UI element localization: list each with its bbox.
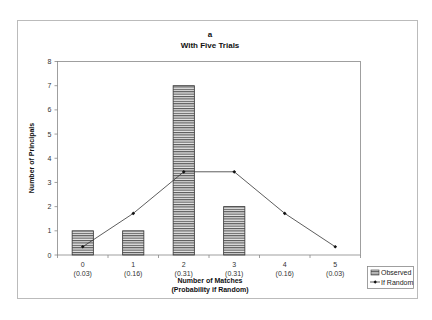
- chart-title: a: [208, 30, 213, 39]
- x-axis-subtitle: (Probability if Random): [172, 286, 249, 294]
- y-tick-label: 1: [48, 227, 52, 234]
- x-tick-label: 4: [283, 261, 287, 268]
- x-tick-label: 3: [232, 261, 236, 268]
- bar-observed-0: [72, 231, 93, 255]
- legend: Observed If Random: [368, 267, 414, 289]
- legend-observed-swatch: [371, 270, 379, 275]
- chart-subtitle: With Five Trials: [181, 41, 240, 50]
- legend-if-random-label: If Random: [381, 279, 413, 286]
- x-tick-probability-label: (0.16): [276, 270, 294, 278]
- y-tick-label: 5: [48, 131, 52, 138]
- y-tick-label: 4: [48, 155, 52, 162]
- y-tick-label: 6: [48, 106, 52, 113]
- legend-observed-label: Observed: [381, 269, 411, 276]
- y-tick-label: 0: [48, 252, 52, 259]
- bar-observed-1: [123, 231, 144, 255]
- plot-area: [58, 62, 361, 256]
- x-tick-label: 1: [131, 261, 135, 268]
- x-tick-probability-label: (0.16): [124, 270, 142, 278]
- chart: a With Five Trials 012345678 0(0.03)1(0.…: [0, 0, 432, 320]
- x-tick-label: 2: [182, 261, 186, 268]
- x-tick-probability-label: (0.03): [74, 270, 92, 278]
- y-tick-label: 8: [48, 58, 52, 65]
- x-axis-title: Number of Matches: [178, 277, 243, 284]
- y-axis-title: Number of Principals: [28, 123, 36, 194]
- bar-observed-3: [224, 207, 245, 255]
- x-tick-label: 0: [81, 261, 85, 268]
- y-tick-label: 2: [48, 203, 52, 210]
- y-tick-label: 3: [48, 179, 52, 186]
- y-tick-label: 7: [48, 82, 52, 89]
- x-tick-probability-label: (0.03): [326, 270, 344, 278]
- x-tick-label: 5: [333, 261, 337, 268]
